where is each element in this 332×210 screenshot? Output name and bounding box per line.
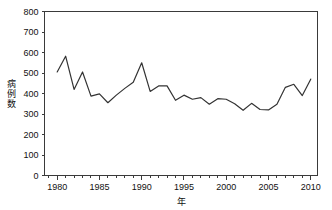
y-tick-label: 600 <box>23 48 38 58</box>
x-tick-label: 2005 <box>258 182 278 192</box>
chart-canvas: 1980198519901995200020052010 01002003004… <box>0 0 332 210</box>
y-tick-label: 500 <box>23 68 38 78</box>
y-tick-label: 400 <box>23 89 38 99</box>
y-axis-label-char: 数 <box>7 98 16 109</box>
x-tick-label: 2010 <box>301 182 321 192</box>
line-chart: 1980198519901995200020052010 01002003004… <box>0 0 332 210</box>
y-axis-label-char: 例 <box>7 88 16 99</box>
y-axis-ticks: 0100200300400500600700800 <box>23 7 44 181</box>
y-tick-label: 100 <box>23 150 38 160</box>
data-series-group <box>57 56 311 110</box>
y-tick-label: 800 <box>23 7 38 17</box>
chart-axes <box>45 12 318 176</box>
x-tick-label: 1985 <box>89 182 109 192</box>
y-tick-label: 700 <box>23 27 38 37</box>
x-tick-label: 1995 <box>174 182 194 192</box>
x-tick-label: 1980 <box>47 182 67 192</box>
x-tick-label: 1990 <box>132 182 152 192</box>
y-tick-label: 300 <box>23 109 38 119</box>
series-line-cases <box>57 56 311 110</box>
x-tick-label: 2000 <box>216 182 236 192</box>
y-tick-label: 0 <box>33 171 38 181</box>
y-axis-label-char: 病 <box>7 78 16 89</box>
x-axis-label: 年 <box>177 196 186 207</box>
y-axis-label: 病例数 <box>7 78 16 109</box>
plot-frame <box>45 12 318 176</box>
y-tick-label: 200 <box>23 130 38 140</box>
x-axis-ticks: 1980198519901995200020052010 <box>47 176 321 192</box>
